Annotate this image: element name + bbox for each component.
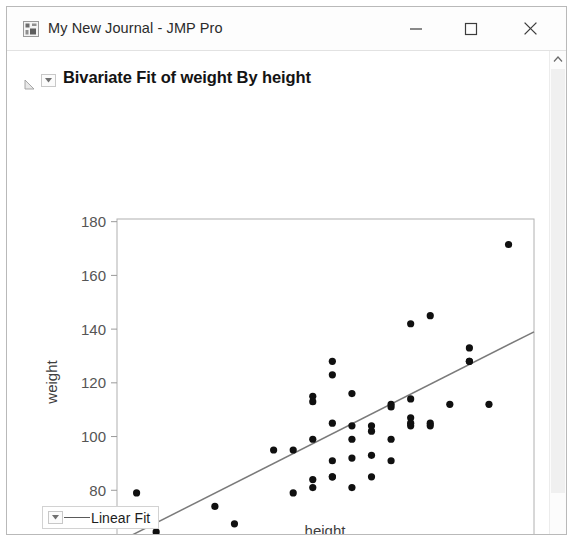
- data-point: [407, 320, 414, 327]
- data-point: [387, 401, 394, 408]
- report-title: Bivariate Fit of weight By height: [63, 68, 311, 87]
- legend-linear-fit[interactable]: Linear Fit: [42, 506, 159, 529]
- data-point: [290, 446, 297, 453]
- bivariate-scatter-chart: 6080100120140160180 5055606570 height we…: [7, 101, 541, 535]
- y-axis-label: weight: [43, 359, 60, 404]
- maximize-button[interactable]: [448, 7, 494, 50]
- data-point: [309, 484, 316, 491]
- data-point: [290, 489, 297, 496]
- data-point: [329, 457, 336, 464]
- data-point: [387, 436, 394, 443]
- data-point: [270, 446, 277, 453]
- data-point: [368, 473, 375, 480]
- report-header: Bivariate Fit of weight By height: [7, 67, 566, 95]
- data-point: [348, 454, 355, 461]
- data-point: [348, 436, 355, 443]
- y-tick-label: 140: [81, 321, 106, 338]
- data-point: [407, 420, 414, 427]
- y-tick-label: 100: [81, 428, 106, 445]
- disclosure-triangle-icon[interactable]: [24, 76, 35, 87]
- chart-svg: 6080100120140160180 5055606570 height we…: [7, 101, 541, 535]
- data-point: [427, 312, 434, 319]
- y-tick-label: 80: [89, 482, 106, 499]
- data-point: [368, 422, 375, 429]
- title-bar: My New Journal - JMP Pro: [7, 7, 566, 51]
- y-axis: 6080100120140160180: [81, 213, 117, 535]
- vertical-scrollbar[interactable]: [549, 51, 566, 534]
- legend-menu-button[interactable]: [48, 511, 63, 524]
- data-point: [427, 420, 434, 427]
- data-point: [309, 476, 316, 483]
- y-tick-label: 120: [81, 374, 106, 391]
- plot-frame: [117, 219, 534, 535]
- data-point: [466, 344, 473, 351]
- data-point: [348, 484, 355, 491]
- data-point: [348, 422, 355, 429]
- y-tick-label: 160: [81, 267, 106, 284]
- data-point: [348, 390, 355, 397]
- data-point: [329, 473, 336, 480]
- legend-line-sample: [64, 517, 90, 518]
- report-menu-button[interactable]: [41, 74, 56, 87]
- chevron-up-icon[interactable]: [550, 51, 566, 68]
- data-point: [485, 401, 492, 408]
- data-point: [387, 457, 394, 464]
- application-window: My New Journal - JMP Pro: [6, 6, 567, 535]
- data-point: [466, 358, 473, 365]
- legend-label: Linear Fit: [91, 510, 150, 526]
- jmp-app-icon: [23, 21, 39, 37]
- data-point: [309, 393, 316, 400]
- data-point: [231, 520, 238, 527]
- close-button[interactable]: [507, 7, 553, 50]
- data-point: [329, 371, 336, 378]
- report-content-area: Bivariate Fit of weight By height 608010…: [7, 51, 566, 534]
- data-point: [211, 503, 218, 510]
- y-tick-label: 180: [81, 213, 106, 230]
- x-axis-label: height: [305, 522, 347, 535]
- minimize-button[interactable]: [393, 7, 439, 50]
- data-point: [329, 420, 336, 427]
- scrollbar-thumb[interactable]: [551, 69, 565, 493]
- data-point: [446, 401, 453, 408]
- window-title: My New Journal - JMP Pro: [48, 20, 223, 36]
- data-point: [309, 436, 316, 443]
- data-point: [329, 358, 336, 365]
- data-point: [133, 489, 140, 496]
- data-point: [368, 452, 375, 459]
- data-point: [505, 241, 512, 248]
- data-point: [407, 395, 414, 402]
